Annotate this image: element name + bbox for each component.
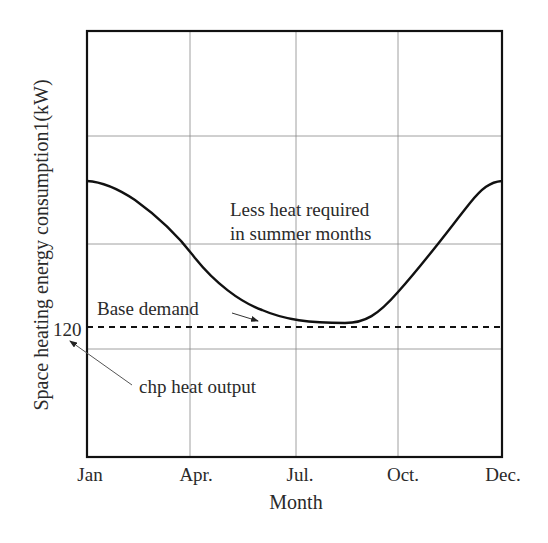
base-demand-label: Base demand xyxy=(97,298,199,319)
chp-output-arrow xyxy=(70,341,132,385)
base-demand-arrow xyxy=(232,313,258,321)
annotation-line-1: Less heat required xyxy=(230,199,370,220)
y-tick-120: 120 xyxy=(53,319,82,340)
x-tick-jan: Jan xyxy=(77,464,103,485)
x-axis-label: Month xyxy=(269,491,322,513)
annotation-line-2: in summer months xyxy=(230,223,371,244)
x-tick-apr: Apr. xyxy=(179,464,212,485)
x-tick-dec: Dec. xyxy=(485,464,520,485)
x-tick-oct: Oct. xyxy=(387,464,419,485)
chp-output-label: chp heat output xyxy=(139,376,257,397)
chart: 120 Jan Apr. Jul. Oct. Dec. Month Space … xyxy=(0,0,548,543)
y-axis-label: Space heating energy consumption1(kW) xyxy=(30,79,53,410)
x-tick-jul: Jul. xyxy=(287,464,314,485)
